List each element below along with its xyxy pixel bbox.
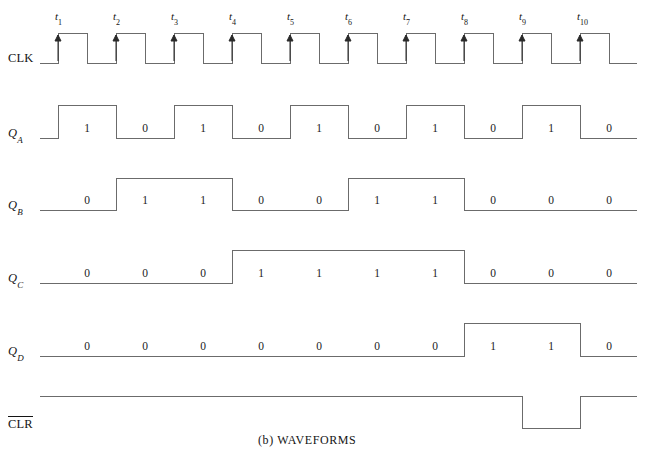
bit-qd-3: 0	[194, 340, 212, 352]
bit-qb-10: 0	[600, 194, 618, 206]
waveform-paths	[40, 33, 637, 428]
bit-qd-2: 0	[136, 340, 154, 352]
signal-label-qd: QD	[8, 344, 24, 361]
time-tick-t5: t5	[287, 10, 294, 25]
rising-edge-arrow-4	[229, 35, 235, 61]
time-tick-t1: t1	[55, 10, 62, 25]
bit-qa-5: 1	[310, 122, 328, 134]
bit-qa-10: 0	[600, 122, 618, 134]
bit-qc-7: 1	[426, 267, 444, 279]
bit-qd-4: 0	[252, 340, 270, 352]
bit-qb-1: 0	[78, 194, 96, 206]
time-tick-t4: t4	[229, 10, 236, 25]
bit-qa-1: 1	[78, 122, 96, 134]
bit-qc-5: 1	[310, 267, 328, 279]
rising-edge-arrow-5	[287, 35, 293, 61]
waveforms-figure: CLKQAQBQCQDCLR t1t2t3t4t5t6t7t8t9t10 101…	[0, 0, 650, 462]
bit-qa-2: 0	[136, 122, 154, 134]
signal-label-qb: QB	[8, 198, 23, 215]
rising-edge-arrow-10	[577, 35, 583, 61]
bit-qd-9: 1	[542, 340, 560, 352]
bit-qa-6: 0	[368, 122, 386, 134]
waveform-canvas	[0, 0, 650, 462]
rising-edge-arrow-2	[113, 35, 119, 61]
bit-qd-10: 0	[600, 340, 618, 352]
time-tick-t3: t3	[171, 10, 178, 25]
bit-qa-8: 0	[484, 122, 502, 134]
rising-edge-arrow-1	[55, 35, 61, 61]
waveform-clk	[40, 33, 637, 63]
signal-label-clk: CLK	[8, 51, 34, 66]
time-tick-t6: t6	[345, 10, 352, 25]
bit-qb-4: 0	[252, 194, 270, 206]
time-tick-t10: t10	[577, 10, 588, 25]
rising-edge-arrow-6	[345, 35, 351, 61]
bit-qb-3: 1	[194, 194, 212, 206]
bit-qb-7: 1	[426, 194, 444, 206]
bit-qd-6: 0	[368, 340, 386, 352]
signal-label-qc: QC	[8, 271, 23, 288]
bit-qd-5: 0	[310, 340, 328, 352]
rising-edge-arrow-7	[403, 35, 409, 61]
bit-qb-2: 1	[136, 194, 154, 206]
bit-qb-5: 0	[310, 194, 328, 206]
time-tick-t2: t2	[113, 10, 120, 25]
rising-edge-arrow-3	[171, 35, 177, 61]
bit-qb-8: 0	[484, 194, 502, 206]
bit-qc-8: 0	[484, 267, 502, 279]
bit-qd-1: 0	[78, 340, 96, 352]
bit-qc-10: 0	[600, 267, 618, 279]
figure-caption: (b) WAVEFORMS	[258, 433, 356, 448]
bit-qc-3: 0	[194, 267, 212, 279]
bit-qd-7: 0	[426, 340, 444, 352]
signal-label-clr: CLR	[8, 416, 33, 432]
bit-qc-6: 1	[368, 267, 386, 279]
bit-qd-8: 1	[484, 340, 502, 352]
bit-qb-9: 0	[542, 194, 560, 206]
time-tick-t9: t9	[519, 10, 526, 25]
rising-edge-arrow-9	[519, 35, 525, 61]
time-tick-t8: t8	[461, 10, 468, 25]
bit-qc-1: 0	[78, 267, 96, 279]
signal-label-qa: QA	[8, 126, 23, 143]
bit-qc-9: 0	[542, 267, 560, 279]
bit-qc-4: 1	[252, 267, 270, 279]
bit-qa-9: 1	[542, 122, 560, 134]
bit-qa-3: 1	[194, 122, 212, 134]
bit-qa-4: 0	[252, 122, 270, 134]
bit-qa-7: 1	[426, 122, 444, 134]
rising-edge-arrow-8	[461, 35, 467, 61]
time-tick-t7: t7	[403, 10, 410, 25]
bit-qb-6: 1	[368, 194, 386, 206]
bit-qc-2: 0	[136, 267, 154, 279]
waveform-clr	[40, 396, 637, 428]
